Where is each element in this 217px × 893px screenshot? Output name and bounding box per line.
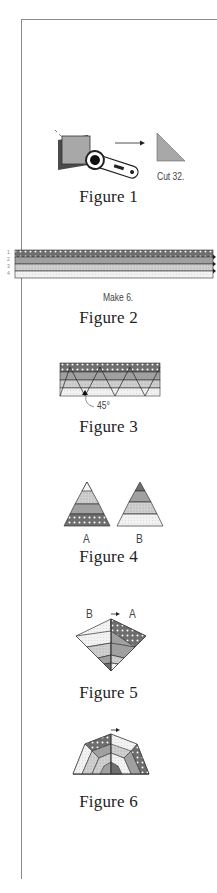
half-octagon-illustration bbox=[0, 720, 217, 780]
strip-set-illustration bbox=[13, 249, 217, 281]
figure-3: 45° Figure 3 bbox=[0, 362, 217, 462]
triangle-piece-icon bbox=[155, 131, 195, 171]
figure-caption: Figure 5 bbox=[0, 683, 217, 703]
figure-caption: Figure 1 bbox=[0, 187, 217, 207]
pieced-triangles-illustration bbox=[0, 603, 217, 683]
figure-1: Cut 32. Figure 1 bbox=[0, 125, 217, 235]
label-b: B bbox=[136, 532, 143, 546]
make-note: Make 6. bbox=[103, 292, 133, 303]
strip-label: 4 bbox=[7, 270, 10, 276]
figure-2: 1 2 3 4 Make 6. Figure 2 bbox=[0, 248, 217, 338]
figure-6: Figure 6 bbox=[0, 720, 217, 820]
label-a: A bbox=[83, 532, 90, 546]
angle-label: 45° bbox=[97, 400, 110, 411]
figure-5: B A Figure 5 bbox=[0, 603, 217, 703]
figure-4: A B Figure 4 bbox=[0, 470, 217, 580]
strip-label: 1 bbox=[7, 249, 10, 255]
figure-caption: Figure 3 bbox=[0, 417, 217, 437]
cut-note: Cut 32. bbox=[157, 171, 184, 182]
figure-caption: Figure 4 bbox=[0, 547, 217, 567]
strip-label: 3 bbox=[7, 263, 10, 269]
triangle-a-icon bbox=[62, 480, 112, 535]
strip-label: 2 bbox=[7, 256, 10, 262]
figure-caption: Figure 2 bbox=[0, 308, 217, 328]
figure-caption: Figure 6 bbox=[0, 792, 217, 812]
triangle-b-icon bbox=[115, 480, 165, 535]
